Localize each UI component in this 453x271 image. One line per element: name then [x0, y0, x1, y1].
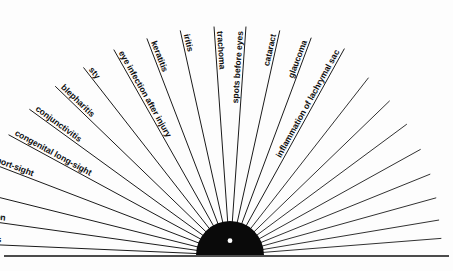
fan-diagram: refraction errorsaccomodationsquintshort… [0, 0, 453, 271]
hub-group [196, 221, 264, 255]
ray-line-squint [0, 188, 199, 247]
hub-semicircle [196, 221, 264, 255]
ray-label-accomodation: accomodation [0, 205, 6, 223]
ray-line-refraction-errors [0, 242, 198, 254]
ray-label-inflammation-of-lachrymal-sac: inflammation of lachrymal sac [274, 48, 342, 160]
diagram-canvas: refraction errorsaccomodationsquintshort… [0, 0, 453, 271]
ray-label-iritis: iritis [182, 33, 196, 53]
ray-label-keratitis: keratitis [149, 39, 170, 73]
ray-label-short-sight: short-sight [0, 153, 35, 178]
ray-unlabeled-6 [261, 198, 436, 247]
ray-line-conjunctivitis [29, 109, 204, 236]
ray-unlabeled-4 [258, 149, 421, 239]
ray-unlabeled-2 [253, 101, 390, 233]
ray-label-refraction-errors: refraction errors [0, 232, 2, 245]
ray-line-keratitis [147, 38, 219, 225]
ray-label-blepharitis: blepharitis [59, 82, 97, 119]
unlabeled-ray-group [250, 78, 442, 253]
ray-line-accomodation [0, 215, 198, 251]
ray-unlabeled-3 [256, 124, 407, 236]
ray-label-sty: sty [87, 65, 103, 81]
ray-line-glaucoma [241, 38, 311, 225]
hub-center-dot [228, 238, 233, 243]
ray-label-conjunctivitis: conjunctivitis [34, 104, 84, 144]
ray-label-glaucoma: glaucoma [286, 38, 309, 79]
